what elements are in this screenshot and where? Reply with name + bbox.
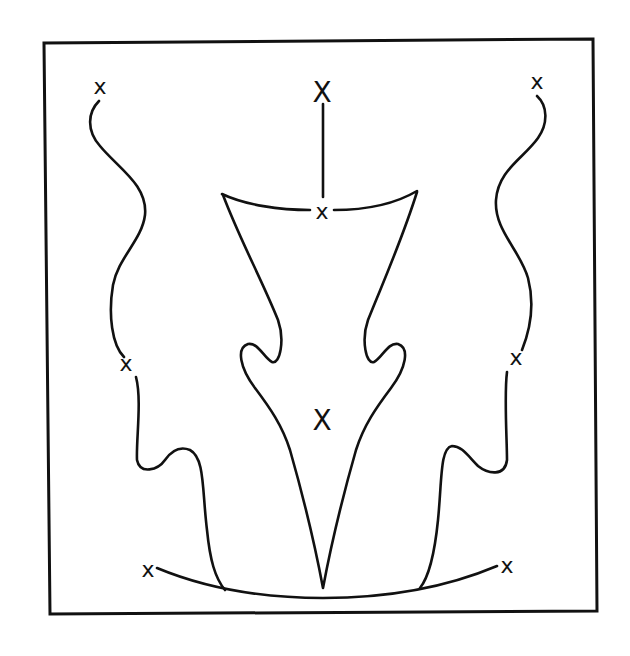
marker-top-right: x [530,69,543,94]
left-upper-curve [90,101,145,357]
marker-top-left: x [93,74,106,99]
marker-center: X [312,404,331,437]
central-shape [223,192,417,588]
right-upper-curve [496,96,545,350]
marker-group: xXxxxxXxx [93,69,543,582]
marker-mid-left: x [119,351,132,376]
frame-border [44,39,597,614]
right-lower-curve [420,372,507,588]
diagram-canvas: xXxxxxXxx [0,0,630,656]
marker-bottom-right: x [500,553,513,578]
neck-arc-right [334,191,417,210]
marker-bottom-left: x [141,557,154,582]
marker-mid-right: x [509,345,522,370]
curve-group [90,96,545,598]
marker-neck: x [315,199,328,224]
marker-top-center: X [312,76,331,109]
neck-arc-left [222,194,310,210]
